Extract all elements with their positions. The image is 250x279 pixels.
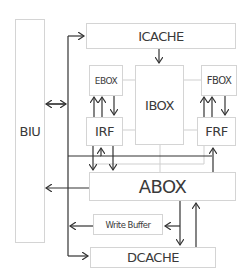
fbox-block: FBOX [201, 65, 237, 96]
ibox-label: IBOX [145, 98, 174, 113]
write-buffer-block: Write Buffer [93, 214, 163, 235]
irf-label: IRF [95, 124, 114, 139]
frf-label: FRF [205, 124, 228, 139]
dcache-block: DCACHE [90, 247, 216, 268]
write-buffer-label: Write Buffer [105, 220, 150, 230]
irf-block: IRF [86, 117, 123, 146]
frf-block: FRF [197, 117, 236, 146]
ebox-block: EBOX [89, 65, 123, 96]
biu-block: BIU [15, 19, 45, 243]
ibox-block: IBOX [135, 65, 184, 145]
icache-label: ICACHE [138, 29, 184, 44]
dcache-label: DCACHE [127, 250, 179, 265]
fbox-label: FBOX [207, 75, 232, 86]
abox-block: ABOX [89, 172, 236, 201]
icache-block: ICACHE [86, 23, 236, 49]
ebox-label: EBOX [95, 76, 117, 86]
abox-label: ABOX [139, 176, 187, 197]
biu-label: BIU [20, 124, 41, 139]
